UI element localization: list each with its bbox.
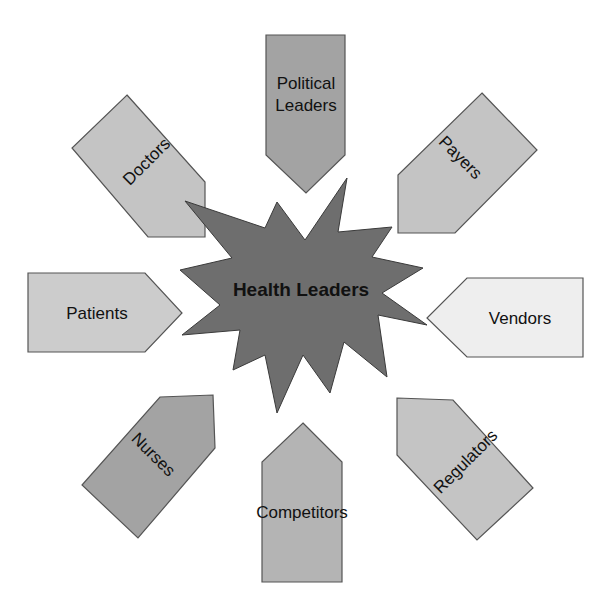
node-label-competitors: Competitors bbox=[256, 503, 348, 522]
node-label-line: Leaders bbox=[275, 96, 336, 115]
node-label-line: Competitors bbox=[256, 503, 348, 522]
center-label: Health Leaders bbox=[233, 279, 369, 300]
node-patients: Patients bbox=[28, 273, 182, 352]
node-label-line: Political bbox=[277, 74, 336, 93]
node-vendors: Vendors bbox=[427, 278, 583, 357]
node-regulators: Regulators bbox=[397, 398, 533, 540]
node-label-patients: Patients bbox=[66, 304, 127, 323]
stakeholder-diagram: PoliticalLeadersPayersVendorsRegulatorsC… bbox=[0, 0, 603, 601]
diagram-svg: PoliticalLeadersPayersVendorsRegulatorsC… bbox=[0, 0, 603, 601]
node-label-line: Vendors bbox=[489, 309, 551, 328]
node-competitors: Competitors bbox=[256, 423, 348, 582]
node-nurses: Nurses bbox=[82, 395, 215, 538]
node-political-leaders: PoliticalLeaders bbox=[266, 35, 345, 193]
node-doctors: Doctors bbox=[72, 95, 205, 237]
node-label-vendors: Vendors bbox=[489, 309, 551, 328]
node-shape-nurses bbox=[82, 395, 215, 538]
center-node: Health Leaders bbox=[180, 178, 427, 413]
node-payers: Payers bbox=[398, 93, 537, 233]
node-label-line: Patients bbox=[66, 304, 127, 323]
